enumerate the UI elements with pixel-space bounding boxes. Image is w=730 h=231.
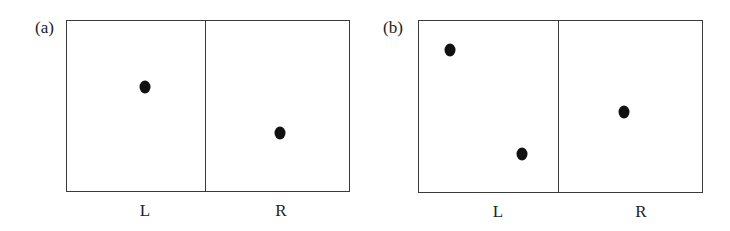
panel-a-right-dot: [275, 127, 286, 140]
panel-a-box: [66, 20, 350, 192]
panel-b-label: (b): [383, 19, 403, 36]
panel-b-box: [418, 20, 703, 193]
panel-b-right-dot: [619, 106, 630, 119]
panel-a-left-dot: [140, 81, 151, 94]
panel-b-right-label: R: [635, 203, 646, 220]
panel-a-label: (a): [35, 19, 54, 36]
panel-b-left-label: L: [493, 203, 503, 220]
panel-b-divider: [558, 21, 559, 192]
panel-b-left-dot-2: [517, 148, 528, 161]
panel-b-left-dot-1: [445, 44, 456, 57]
panel-a-left-label: L: [140, 202, 150, 219]
panel-a-right-label: R: [275, 202, 286, 219]
panel-a-divider: [205, 21, 206, 191]
